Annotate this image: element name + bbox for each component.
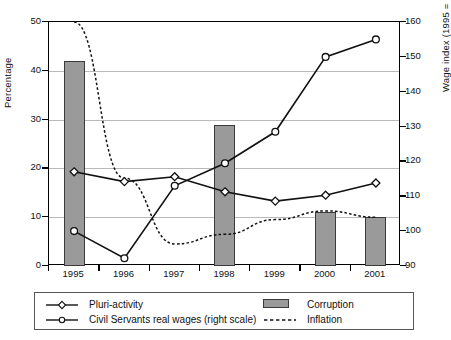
- legend-label-pluri-activity: Pluri-activity: [89, 299, 143, 310]
- legend-label-civil-servants: Civil Servants real wages (right scale): [89, 314, 256, 325]
- legend-line-open-circle-icon: [45, 314, 79, 328]
- y-axis-right-tick-label: 100: [405, 224, 445, 235]
- y-axis-right-title: Wage index (1995 = 100): [440, 0, 451, 92]
- marker-pluri-activity: [221, 188, 229, 196]
- y-axis-right-tick-label: 120: [405, 154, 445, 165]
- marker-civil-servants: [272, 128, 279, 135]
- y-axis-right-tick-label: 160: [405, 15, 445, 26]
- marker-civil-servants: [71, 228, 78, 235]
- legend-gray-swatch-icon: [263, 299, 289, 310]
- marker-civil-servants: [373, 36, 380, 43]
- marker-civil-servants: [222, 160, 229, 167]
- y-axis-left-tick-label: 50: [0, 15, 41, 26]
- x-axis-tick-label: 2001: [350, 268, 400, 279]
- y-axis-left-tick-label: 30: [0, 113, 41, 124]
- legend-line-open-diamond-icon: [45, 299, 79, 313]
- plot-area: [48, 21, 400, 265]
- x-axis-tick-label: 2000: [299, 268, 349, 279]
- legend-label-inflation: Inflation: [307, 314, 342, 325]
- legend-label-corruption: Corruption: [307, 299, 354, 310]
- marker-pluri-activity: [322, 191, 330, 199]
- marker-pluri-activity: [120, 178, 128, 186]
- x-axis-tick-label: 1996: [98, 268, 148, 279]
- x-axis-tick-label: 1997: [149, 268, 199, 279]
- marker-civil-servants: [322, 54, 329, 61]
- x-axis-tick-label: 1998: [199, 268, 249, 279]
- marker-pluri-activity: [171, 173, 179, 181]
- y-axis-left-tick-label: 0: [0, 259, 41, 270]
- y-axis-right-tick-label: 140: [405, 85, 445, 96]
- line-series-layer: [49, 22, 401, 266]
- x-axis-tick-label: 1999: [249, 268, 299, 279]
- x-axis-tick-label: 1995: [48, 268, 98, 279]
- marker-civil-servants: [121, 255, 128, 262]
- line-civil-servants: [74, 39, 376, 258]
- y-axis-right-tick-label: 150: [405, 50, 445, 61]
- y-axis-left-tick-label: 20: [0, 161, 41, 172]
- y-axis-right-tick-label: 110: [405, 189, 445, 200]
- y-axis-right-tick-label: 130: [405, 120, 445, 131]
- y-axis-left-tick-label: 40: [0, 64, 41, 75]
- marker-civil-servants: [171, 182, 178, 189]
- marker-pluri-activity: [372, 179, 380, 187]
- chart-legend: Pluri-activity Civil Servants real wages…: [34, 292, 414, 330]
- marker-pluri-activity: [271, 197, 279, 205]
- legend-dotted-line-icon: [263, 314, 297, 328]
- marker-pluri-activity: [70, 168, 78, 176]
- y-axis-right-tick-label: 90: [405, 259, 445, 270]
- y-axis-left-tick-label: 10: [0, 210, 41, 221]
